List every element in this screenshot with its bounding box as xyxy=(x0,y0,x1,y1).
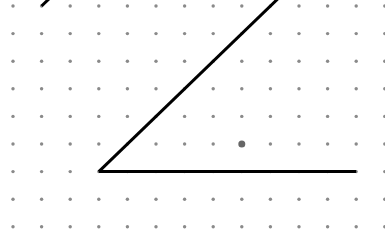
grid-dot xyxy=(269,60,272,63)
grid-dots xyxy=(11,4,385,228)
marks xyxy=(238,141,245,148)
grid-dot xyxy=(40,142,43,145)
grid-dot xyxy=(326,198,329,201)
grid-dot xyxy=(11,198,14,201)
grid-dot xyxy=(269,142,272,145)
grid-dot xyxy=(326,87,329,90)
grid-dot xyxy=(97,225,100,228)
grid-dot xyxy=(11,115,14,118)
grid-dot xyxy=(212,225,215,228)
grid-dot xyxy=(240,225,243,228)
grid-dot xyxy=(240,115,243,118)
grid-dot xyxy=(97,198,100,201)
grid-dot xyxy=(269,32,272,35)
grid-dot xyxy=(297,115,300,118)
grid-dot xyxy=(69,4,72,7)
grid-dot xyxy=(69,142,72,145)
grid-dot xyxy=(97,142,100,145)
grid-dot xyxy=(183,115,186,118)
grid-dot xyxy=(69,87,72,90)
grid-dot xyxy=(11,60,14,63)
grid-dot xyxy=(154,87,157,90)
grid-dot xyxy=(11,170,14,173)
grid-dot xyxy=(183,142,186,145)
grid-dot xyxy=(154,225,157,228)
grid-dot xyxy=(355,60,358,63)
grid-dot xyxy=(269,87,272,90)
grid-dot xyxy=(269,198,272,201)
grid-dot xyxy=(126,32,129,35)
grid-dot xyxy=(297,87,300,90)
grid-dot xyxy=(11,142,14,145)
grid-dot xyxy=(212,87,215,90)
grid-dot xyxy=(154,32,157,35)
highlight-point xyxy=(238,141,245,148)
grid-dot xyxy=(126,198,129,201)
grid-dot xyxy=(97,115,100,118)
grid-dot xyxy=(97,60,100,63)
grid-dot xyxy=(240,87,243,90)
grid-dot xyxy=(154,4,157,7)
grid-dot xyxy=(11,87,14,90)
grid-dot xyxy=(240,60,243,63)
grid-dot xyxy=(69,225,72,228)
grid-dot xyxy=(40,225,43,228)
grid-dot xyxy=(269,225,272,228)
grid-dot xyxy=(11,32,14,35)
grid-dot xyxy=(355,142,358,145)
grid-dot xyxy=(212,115,215,118)
grid-dot xyxy=(11,4,14,7)
dot-grid-diagram xyxy=(0,0,385,248)
grid-dot xyxy=(40,32,43,35)
grid-dot xyxy=(183,32,186,35)
grid-dot xyxy=(11,225,14,228)
grid-dot xyxy=(183,60,186,63)
grid-dot xyxy=(326,225,329,228)
grid-dot xyxy=(297,142,300,145)
grid-dot xyxy=(240,4,243,7)
grid-dot xyxy=(297,4,300,7)
grid-dot xyxy=(126,225,129,228)
grid-dot xyxy=(326,32,329,35)
grid-dot xyxy=(183,225,186,228)
grid-dot xyxy=(297,60,300,63)
grid-dot xyxy=(97,32,100,35)
grid-dot xyxy=(126,60,129,63)
grid-dot xyxy=(40,198,43,201)
grid-dot xyxy=(326,142,329,145)
grid-dot xyxy=(69,198,72,201)
angle-lines xyxy=(42,0,357,172)
partial-line-segment xyxy=(42,0,71,6)
grid-dot xyxy=(355,225,358,228)
grid-dot xyxy=(355,115,358,118)
diagonal-ray xyxy=(99,0,305,172)
grid-dot xyxy=(355,32,358,35)
grid-dot xyxy=(212,142,215,145)
grid-dot xyxy=(183,198,186,201)
grid-dot xyxy=(69,170,72,173)
grid-dot xyxy=(297,225,300,228)
grid-dot xyxy=(126,87,129,90)
grid-dot xyxy=(40,60,43,63)
grid-dot xyxy=(69,115,72,118)
grid-dot xyxy=(40,115,43,118)
grid-dot xyxy=(297,198,300,201)
grid-dot xyxy=(240,198,243,201)
grid-dot xyxy=(183,4,186,7)
grid-dot xyxy=(40,170,43,173)
grid-dot xyxy=(126,4,129,7)
grid-dot xyxy=(355,4,358,7)
grid-dot xyxy=(69,32,72,35)
grid-dot xyxy=(40,87,43,90)
grid-dot xyxy=(355,198,358,201)
grid-dot xyxy=(212,198,215,201)
grid-dot xyxy=(154,60,157,63)
grid-dot xyxy=(97,4,100,7)
grid-dot xyxy=(69,60,72,63)
grid-dot xyxy=(212,4,215,7)
grid-dot xyxy=(355,87,358,90)
grid-dot xyxy=(154,198,157,201)
grid-dot xyxy=(326,115,329,118)
grid-dot xyxy=(126,115,129,118)
grid-dot xyxy=(154,142,157,145)
